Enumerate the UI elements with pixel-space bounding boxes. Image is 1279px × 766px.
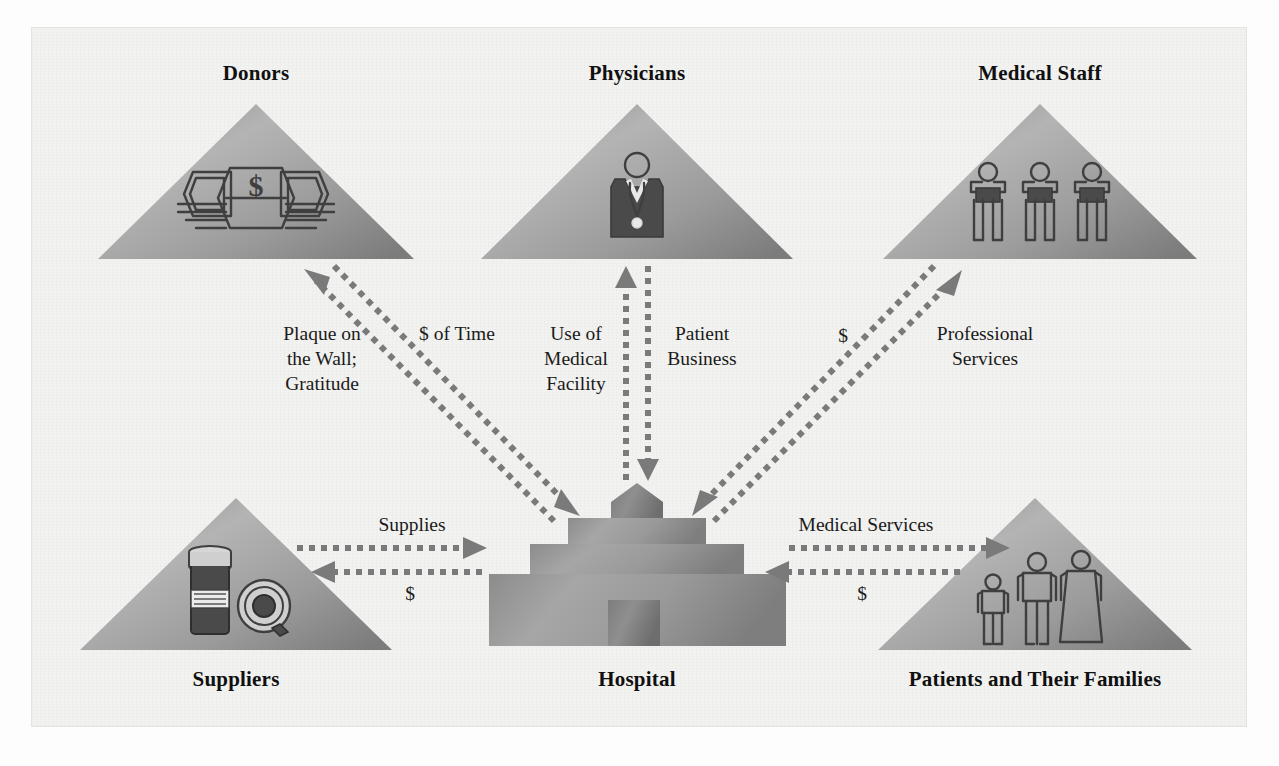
node-donors-label: Donors bbox=[223, 61, 290, 85]
node-medical-staff[interactable]: Medical Staff bbox=[883, 61, 1197, 259]
flow-label-professional-line1: Professional bbox=[937, 323, 1034, 344]
flow-label-patient-money: $ bbox=[857, 583, 867, 604]
stakeholder-diagram: Donors $ bbox=[0, 0, 1279, 766]
flow-label-medical-services: Medical Services bbox=[799, 514, 934, 535]
node-hospital[interactable]: Hospital bbox=[489, 483, 786, 691]
node-donors[interactable]: Donors $ bbox=[98, 61, 414, 259]
flow-label-supplier-money-text: $ bbox=[405, 583, 415, 604]
flow-label-use-of-medical-facility: Use of Medical Facility bbox=[544, 323, 608, 394]
node-physicians-label: Physicians bbox=[589, 61, 686, 85]
flow-label-supplies-text: Supplies bbox=[378, 514, 445, 535]
node-suppliers-label: Suppliers bbox=[193, 667, 280, 691]
flow-label-staff-money: $ bbox=[838, 325, 848, 346]
flow-label-use-line1: Use of bbox=[550, 323, 602, 344]
node-patients-label: Patients and Their Families bbox=[909, 667, 1162, 691]
svg-text:$: $ bbox=[249, 169, 264, 202]
node-hospital-label: Hospital bbox=[598, 667, 675, 691]
flow-label-supplier-money: $ bbox=[405, 583, 415, 604]
arrow-hospital-to-suppliers bbox=[311, 561, 488, 583]
flow-label-use-line2: Medical bbox=[544, 348, 608, 369]
arrow-physicians-to-hospital bbox=[637, 266, 659, 481]
arrow-hospital-to-staff bbox=[714, 270, 962, 521]
flow-label-plaque: Plaque on the Wall; Gratitude bbox=[283, 323, 361, 394]
arrow-patients-to-hospital bbox=[765, 561, 962, 583]
arrow-hospital-to-donors bbox=[304, 269, 554, 521]
arrow-staff-to-hospital bbox=[692, 266, 934, 516]
flow-label-supplies: Supplies bbox=[378, 514, 445, 535]
flow-label-dollar-of-time: $ of Time bbox=[419, 323, 495, 344]
flow-label-plaque-line2: the Wall; bbox=[287, 348, 357, 369]
flow-label-staff-money-text: $ bbox=[838, 325, 848, 346]
flow-label-dollar-of-time-text: $ of Time bbox=[419, 323, 495, 344]
flow-label-use-line3: Facility bbox=[546, 373, 606, 394]
flow-label-patient-business: Patient Business bbox=[667, 323, 736, 369]
arrow-donors-to-hospital bbox=[334, 266, 580, 516]
node-medical-staff-label: Medical Staff bbox=[978, 61, 1102, 85]
flow-label-medical-services-text: Medical Services bbox=[799, 514, 934, 535]
flow-label-plaque-line3: Gratitude bbox=[285, 373, 359, 394]
arrow-suppliers-to-hospital bbox=[297, 537, 487, 559]
flow-label-patient-business-line1: Patient bbox=[675, 323, 730, 344]
flow-label-patient-business-line2: Business bbox=[667, 348, 736, 369]
arrow-hospital-to-physicians bbox=[615, 266, 637, 480]
flow-label-patient-money-text: $ bbox=[857, 583, 867, 604]
flow-label-professional-services: Professional Services bbox=[937, 323, 1034, 369]
flow-label-plaque-line1: Plaque on bbox=[283, 323, 361, 344]
flow-label-professional-line2: Services bbox=[952, 348, 1018, 369]
node-suppliers[interactable]: Suppliers bbox=[80, 498, 392, 691]
diagram-canvas: Donors $ bbox=[0, 0, 1279, 766]
hospital-building-icon bbox=[489, 483, 786, 646]
node-physicians[interactable]: Physicians bbox=[481, 61, 793, 259]
